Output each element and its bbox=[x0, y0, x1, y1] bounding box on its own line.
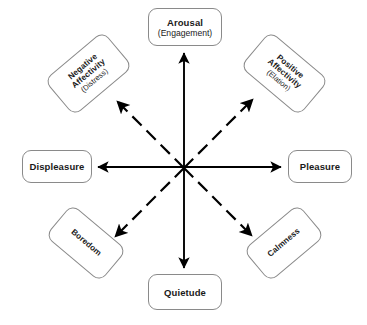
arrow-up-right bbox=[184, 99, 253, 168]
arrow-down-right bbox=[184, 168, 252, 236]
node-arousal-sublabel: (Engagement) bbox=[158, 28, 212, 38]
node-arousal-label: Arousal bbox=[167, 17, 203, 28]
node-quietude-label: Quietude bbox=[164, 287, 206, 298]
diagram-canvas: Arousal (Engagement) Positive Affectivit… bbox=[0, 0, 367, 325]
node-displeasure-label: Displeasure bbox=[30, 161, 85, 172]
node-boredom-label: Boredom bbox=[69, 228, 103, 259]
node-calmness-label: Calmness bbox=[266, 227, 302, 260]
node-displeasure[interactable]: Displeasure bbox=[22, 150, 92, 183]
node-pleasure-label: Pleasure bbox=[300, 161, 340, 172]
arrow-up-left bbox=[117, 101, 184, 168]
arrow-down-left bbox=[115, 168, 184, 237]
node-arousal[interactable]: Arousal (Engagement) bbox=[148, 8, 222, 46]
node-quietude[interactable]: Quietude bbox=[148, 274, 222, 310]
node-pleasure[interactable]: Pleasure bbox=[288, 150, 352, 183]
